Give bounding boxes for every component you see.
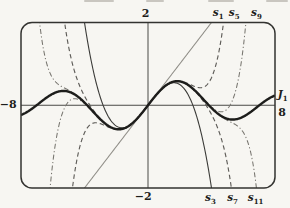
tick-label-8: 8 [278, 106, 286, 119]
bessel-j1-approximations-plot: 2−2−88J1s1s5s9s3s7s11 [0, 0, 290, 208]
label-s5: s5 [229, 6, 240, 21]
tick-label-2: 2 [142, 7, 150, 20]
label-s7: s7 [227, 191, 238, 206]
textbook-figure-page: 2−2−88J1s1s5s9s3s7s11 [0, 0, 290, 208]
label-s3: s3 [205, 191, 216, 206]
label-s1: s1 [213, 6, 224, 21]
label-J1: J1 [276, 88, 288, 103]
label-s11: s11 [248, 191, 264, 206]
label-s9: s9 [251, 6, 262, 21]
tick-label-neg8: −8 [0, 98, 17, 111]
tick-label-neg2: −2 [135, 190, 152, 203]
